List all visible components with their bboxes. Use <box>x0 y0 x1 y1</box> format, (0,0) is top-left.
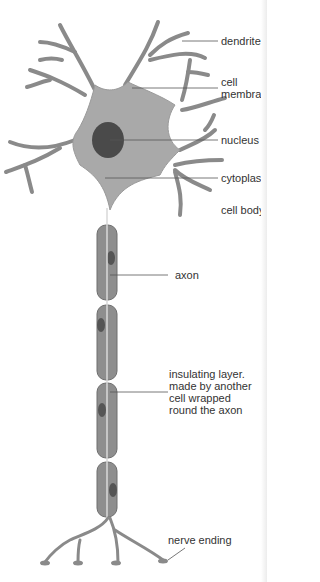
terminal-buttons <box>40 559 168 566</box>
label-axon: axon <box>175 269 199 281</box>
page-edge <box>261 0 267 582</box>
label-insulating-3: cell wrapped <box>169 392 231 404</box>
label-cell-body: cell body <box>221 204 264 216</box>
label-dendrite: dendrite <box>221 35 261 47</box>
label-insulating-4: round the axon <box>169 404 242 416</box>
label-cell-membrane-2: membra <box>221 88 261 100</box>
nerve-endings <box>45 518 163 562</box>
label-insulating-1: insulating layer. <box>169 368 245 380</box>
label-insulating-2: made by another <box>169 380 252 392</box>
label-cell-membrane-1: cell <box>221 76 238 88</box>
label-nerve-ending: nerve ending <box>168 534 232 546</box>
label-nucleus: nucleus <box>221 134 259 146</box>
cell-body-shape <box>73 82 180 210</box>
label-cytoplasm: cytoplas <box>221 172 261 184</box>
